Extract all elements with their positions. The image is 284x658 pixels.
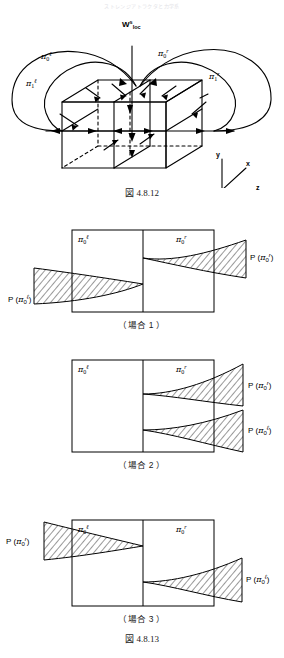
inner-arrow-a-head	[112, 140, 118, 146]
loop-arrow-left-in	[119, 78, 127, 86]
axis-label-y: y	[216, 151, 220, 158]
leader-pi0l-b	[112, 84, 126, 96]
case-3-figure: π0ℓ π0r P (π0r) P (π0ℓ)	[0, 508, 284, 616]
case-1-right-wedge	[143, 240, 246, 278]
case-1-left-wedge	[34, 268, 143, 304]
case-2-outer-label-top: P (π0r)	[248, 380, 272, 391]
case-2-label-pi-0-l: π0ℓ	[78, 364, 89, 375]
horizontal-flow-line-left	[62, 109, 98, 131]
case-1-label-pi-0-r: π0r	[176, 234, 187, 245]
label-pi-1-r: π1r	[209, 71, 220, 82]
case-1-outer-label-right: P (π0r)	[250, 252, 274, 263]
leader-pi1l	[60, 114, 78, 126]
label-w-s-loc: Wsloc	[122, 20, 141, 31]
case-3-right-wedge	[143, 558, 242, 602]
caption-figure-4-8-13: 図 4.8.13	[0, 632, 284, 645]
label-pi-0-l: π0ℓ	[41, 51, 52, 62]
left-homoclinic-loop-outer	[12, 51, 136, 131]
case-1-outer-label-left: P (π0ℓ)	[8, 294, 31, 305]
flow-arrow-1	[88, 128, 97, 134]
figure-4-8-12-drawing	[0, 18, 284, 188]
label-pi-1-l: π1ℓ	[26, 78, 37, 89]
case-2-upper-wedge	[143, 364, 243, 406]
leader-pi0r	[162, 86, 176, 96]
caption-figure-4-8-12: 図 4.8.12	[0, 186, 284, 199]
case-1-subcaption: （場合 1 ）	[0, 318, 284, 330]
case-2-label-pi-0-r: π0r	[176, 364, 187, 375]
label-pi-0-r: π0r	[158, 48, 169, 59]
case-3-outer-label-left: P (π0r)	[6, 536, 30, 547]
right-homoclinic-loop-inner	[140, 62, 236, 131]
case-2-drawing	[0, 352, 284, 462]
case-1-figure: π0ℓ π0r P (π0ℓ) P (π0r)	[0, 222, 284, 322]
box-right-face	[166, 80, 202, 168]
case-1-drawing	[0, 222, 284, 322]
label-w-sub: loc	[133, 24, 141, 30]
case-3-label-pi-0-r: π0r	[176, 524, 187, 535]
flow-arrow-2	[144, 128, 153, 134]
axis-x-line	[222, 168, 246, 188]
case-2-subcaption: （場合 2 ）	[0, 458, 284, 470]
case-3-drawing	[0, 508, 284, 616]
case-3-subcaption: （場合 3 ）	[0, 612, 284, 624]
box-hidden-edge-bottom-left	[62, 146, 98, 168]
case-3-outer-label-right: P (π0ℓ)	[246, 574, 269, 585]
case-2-figure: π0ℓ π0r P (π0r) P (π0ℓ)	[0, 352, 284, 462]
leader-pi1r	[192, 102, 206, 114]
case-2-outer-label-bottom: P (π0ℓ)	[248, 425, 271, 436]
case-2-lower-wedge	[143, 410, 243, 452]
inner-arrow-b-head	[148, 134, 154, 140]
axis-label-x: x	[246, 160, 250, 167]
figure-4-8-12: Wsloc π0ℓ π0r π1ℓ π1r y x z	[0, 18, 284, 188]
flow-arrow-6	[226, 128, 235, 134]
right-homoclinic-loop-outer	[140, 49, 271, 131]
flow-arrow-5	[51, 128, 60, 134]
flow-arrow-3	[196, 128, 205, 134]
case-3-label-pi-0-l: π0ℓ	[78, 524, 89, 535]
case-1-label-pi-0-l: π0ℓ	[78, 234, 89, 245]
running-header: ストレンジアトラクタと力学系	[0, 2, 284, 9]
horizontal-flow-line-right	[166, 109, 202, 131]
label-w-base: W	[122, 20, 130, 29]
case-3-left-wedge	[44, 522, 143, 560]
page-root: ストレンジアトラクタと力学系	[0, 0, 284, 658]
leader-pi1r-tail	[200, 94, 208, 98]
